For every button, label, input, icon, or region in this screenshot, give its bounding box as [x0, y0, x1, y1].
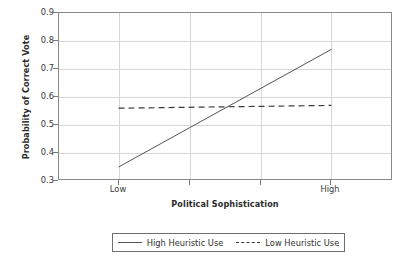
- legend-entry-high-heuristic-use: High Heuristic Use: [118, 238, 224, 248]
- y-tick-label: 0.8: [28, 36, 54, 44]
- y-tick-label: 0.6: [28, 92, 54, 100]
- y-tick-label: 0.4: [28, 148, 54, 156]
- x-tick-mark: [260, 180, 261, 185]
- y-tick-label: 0.7: [28, 64, 54, 72]
- chart-legend: High Heuristic Use Low Heuristic Use: [112, 233, 345, 252]
- x-tick-label-high: High: [300, 184, 360, 194]
- plot-area: [58, 12, 392, 180]
- chart-figure: Probability of Correct Vote 0.9 0.8 0.7 …: [0, 0, 408, 257]
- y-tick-label: 0.9: [28, 8, 54, 16]
- legend-line-dashed-icon: [236, 242, 260, 243]
- y-axis-tick-labels: 0.9 0.8 0.7 0.6 0.5 0.4 0.3: [26, 0, 54, 257]
- legend-entry-low-heuristic-use: Low Heuristic Use: [236, 238, 339, 248]
- x-axis-title: Political Sophistication: [58, 199, 392, 209]
- plot-inner: [59, 13, 391, 179]
- series-layer: [59, 13, 393, 181]
- x-tick-label-low: Low: [88, 184, 148, 194]
- y-tick-mark: [53, 180, 58, 181]
- y-tick-label: 0.5: [28, 120, 54, 128]
- y-tick-label: 0.3: [28, 176, 54, 184]
- x-tick-mark: [189, 180, 190, 185]
- legend-line-solid-icon: [118, 242, 142, 243]
- legend-label: Low Heuristic Use: [265, 238, 339, 248]
- legend-label: High Heuristic Use: [147, 238, 224, 248]
